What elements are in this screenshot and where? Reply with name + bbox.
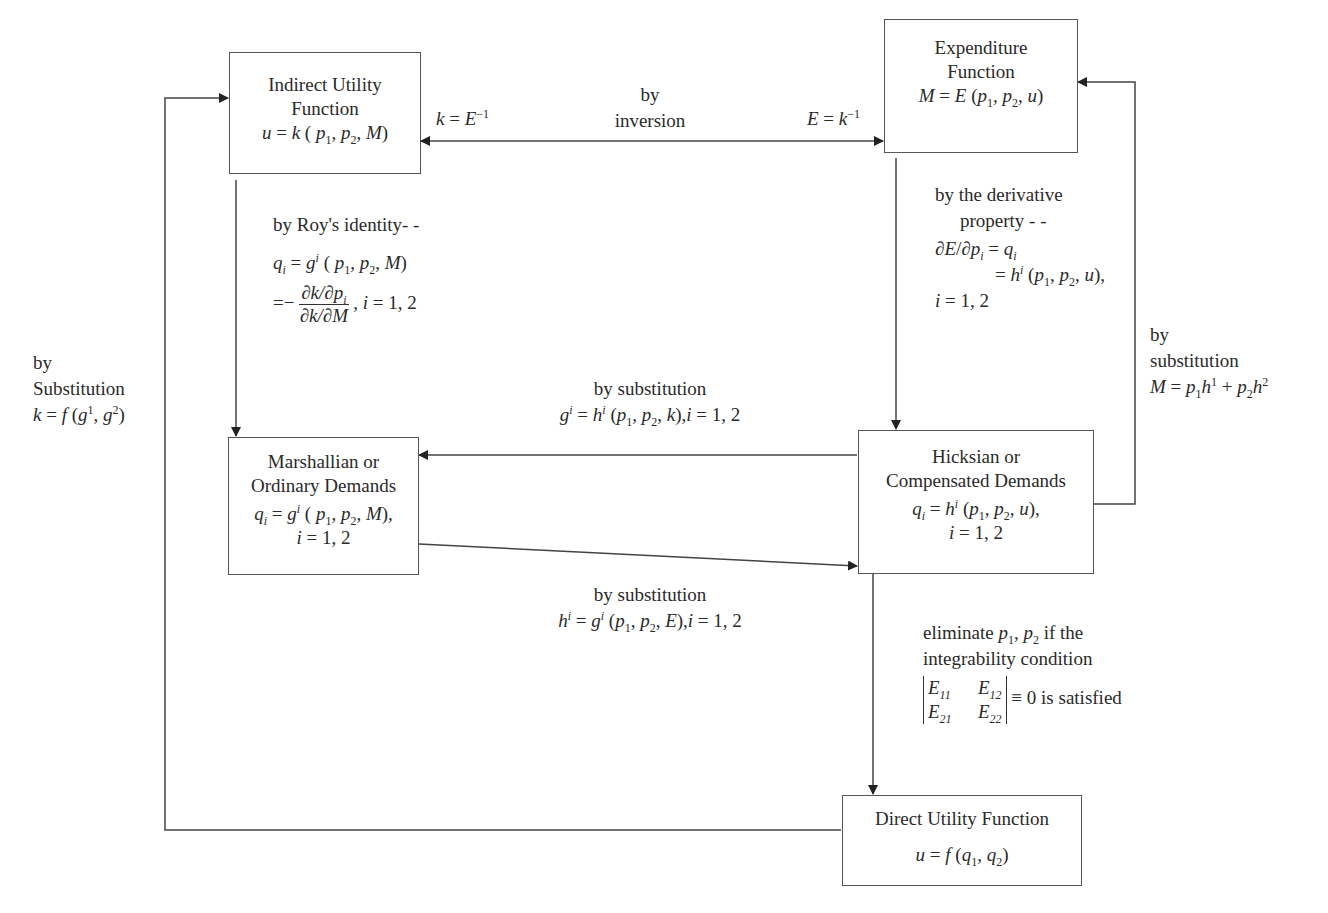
- derivative-property-formula: ∂E/∂pi = qi = hi (p1, p2, u), i = 1, 2: [935, 236, 1105, 314]
- inversion-label: by inversion: [590, 82, 710, 134]
- direct-to-indirect-label: by Substitution k = f (g1, g2): [33, 350, 125, 428]
- roys-identity-label: by Roy's identity- -: [273, 212, 419, 238]
- integrability-label: eliminate p1, p2 if the integrability co…: [923, 620, 1092, 672]
- hicksian-title-1: Hicksian or: [859, 445, 1093, 469]
- connector-lines: [0, 0, 1328, 913]
- derivative-property-label: by the derivative property - -: [935, 182, 1063, 234]
- marshallian-title-2: Ordinary Demands: [229, 474, 418, 498]
- direct-utility-formula: u = f (q1, q2): [843, 840, 1081, 870]
- marshall-to-hicks-label: by substitution hi = gi (p1, p2, E),i = …: [500, 582, 800, 634]
- indirect-utility-title-2: Function: [230, 97, 420, 121]
- hicksian-box: Hicksian or Compensated Demands qi = hi …: [858, 430, 1094, 574]
- marshallian-title-1: Marshallian or: [229, 450, 418, 474]
- roys-identity-formula: qi = gi ( p1, p2, M): [273, 250, 407, 276]
- indirect-utility-box: Indirect Utility Function u = k ( p1, p2…: [229, 52, 421, 174]
- integrability-condition: E11E12 E21E22 ≡ 0 is satisfied: [923, 676, 1122, 724]
- marshall-to-hicks-arrow: [419, 544, 857, 566]
- hicksian-formula: qi = hi (p1, p2, u),: [859, 497, 1093, 521]
- hicks-to-expenditure-label: by substitution M = p1h1 + p2h2: [1150, 322, 1268, 400]
- direct-utility-box: Direct Utility Function u = f (q1, q2): [842, 795, 1082, 886]
- expenditure-title-2: Function: [885, 60, 1077, 84]
- hicksian-title-2: Compensated Demands: [859, 469, 1093, 493]
- indirect-utility-formula: u = k ( p1, p2, M): [230, 121, 420, 145]
- expenditure-box: Expenditure Function M = E (p1, p2, u): [884, 19, 1078, 153]
- inversion-right-formula: E = k−1: [807, 106, 860, 132]
- marshallian-index: i = 1, 2: [229, 526, 418, 550]
- expenditure-formula: M = E (p1, p2, u): [885, 84, 1077, 108]
- roys-identity-fraction: =− ∂k/∂pi ∂k/∂M , i = 1, 2: [273, 282, 417, 327]
- determinant: E11E12 E21E22: [923, 676, 1007, 724]
- inversion-left-formula: k = E−1: [436, 106, 489, 132]
- marshallian-box: Marshallian or Ordinary Demands qi = gi …: [228, 437, 419, 575]
- hicksian-index: i = 1, 2: [859, 521, 1093, 545]
- direct-utility-title: Direct Utility Function: [843, 804, 1081, 834]
- marshallian-formula: qi = gi ( p1, p2, M),: [229, 502, 418, 526]
- indirect-utility-title-1: Indirect Utility: [230, 73, 420, 97]
- expenditure-title-1: Expenditure: [885, 36, 1077, 60]
- hicks-to-marshall-label: by substitution gi = hi (p1, p2, k),i = …: [500, 376, 800, 428]
